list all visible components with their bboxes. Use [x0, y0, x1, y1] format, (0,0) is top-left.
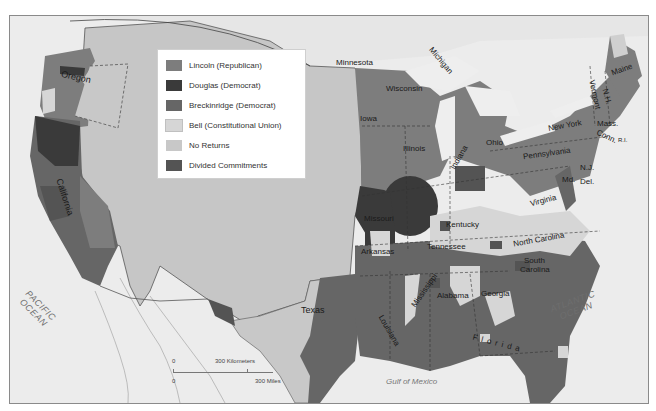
scale-bar: 0 300 Kilometers 0 300 Miles: [172, 357, 282, 397]
label-mass: Mass.: [597, 119, 618, 128]
label-missouri: Missouri: [364, 214, 394, 223]
scale-bar-miles: [173, 372, 273, 375]
legend-item-bell: Bell (Constitutional Union): [166, 119, 282, 131]
label-wisconsin: Wisconsin: [386, 84, 422, 93]
label-gulf-of-mexico: Gulf of Mexico: [386, 377, 437, 386]
bell-swatch: [166, 120, 182, 131]
label-illinois: Illinois: [403, 144, 425, 153]
breckinridge-swatch: [166, 100, 182, 111]
label-georgia: Georgia: [481, 289, 509, 298]
map-legend: Lincoln (Republican) Douglas (Democrat) …: [157, 49, 306, 179]
label-iowa: Iowa: [360, 114, 377, 123]
douglas-swatch: [166, 80, 182, 91]
label-md: Md.: [562, 175, 575, 184]
label-minnesota: Minnesota: [336, 58, 373, 67]
legend-item-breckinridge: Breckinridge (Democrat): [166, 99, 276, 111]
legend-item-lincoln: Lincoln (Republican): [166, 59, 262, 71]
label-ri: R.I.: [618, 137, 627, 143]
label-kentucky: Kentucky: [446, 220, 479, 229]
label-ohio: Ohio: [486, 138, 503, 147]
label-south-carolina-2: Carolina: [520, 265, 550, 274]
label-alabama: Alabama: [437, 291, 469, 300]
election-map: [10, 16, 648, 403]
lincoln-swatch: [166, 60, 182, 71]
label-arkansas: Arkansas: [361, 247, 394, 256]
no-returns-swatch: [166, 140, 182, 151]
label-south-carolina-1: South: [524, 256, 545, 265]
label-nj: N.J.: [580, 163, 594, 172]
map-frame: Lincoln (Republican) Douglas (Democrat) …: [9, 15, 649, 404]
label-tennessee: Tennessee: [427, 242, 466, 251]
label-texas: Texas: [301, 305, 325, 315]
legend-item-douglas: Douglas (Democrat): [166, 79, 261, 91]
divided-swatch: [166, 160, 182, 171]
legend-item-divided: Divided Commitments: [166, 159, 267, 171]
label-del: Del.: [580, 177, 594, 186]
legend-item-no-returns: No Returns: [166, 139, 229, 151]
